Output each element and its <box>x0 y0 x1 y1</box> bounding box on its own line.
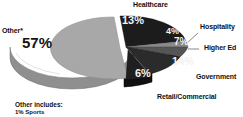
label-higher-ed: Higher Ed <box>204 44 236 52</box>
value-hospitality: 4% <box>166 27 179 36</box>
value-other: 57% <box>22 35 52 50</box>
label-hospitality: Hospitality <box>200 23 235 31</box>
label-retail-commercial: Retail/Commercial <box>157 93 216 101</box>
value-higher-ed: 7% <box>174 37 188 47</box>
footnote-detail: 1% Sports <box>15 109 44 117</box>
value-government: 14% <box>172 56 194 67</box>
value-healthcare: 13% <box>122 15 144 26</box>
pie-chart: Other* Healthcare Hospitality Higher Ed … <box>0 0 243 117</box>
label-healthcare: Healthcare <box>133 1 168 9</box>
slice-top-other <box>50 17 128 79</box>
value-retail-commercial: 6% <box>135 68 151 79</box>
label-government: Government <box>196 73 236 81</box>
label-other: Other* <box>2 27 23 35</box>
footnote-heading: Other includes: <box>15 101 63 109</box>
leader-line-hospitality <box>187 33 198 43</box>
